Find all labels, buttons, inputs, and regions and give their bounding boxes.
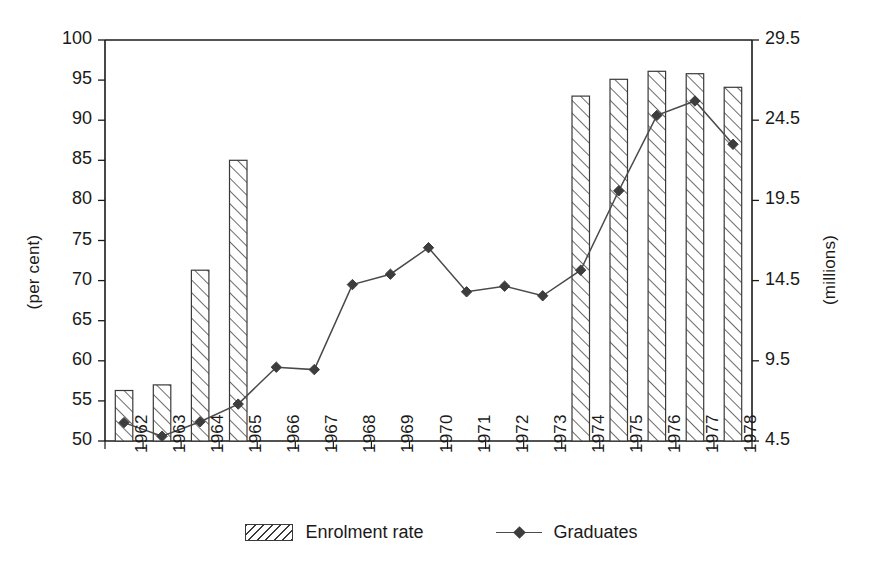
x-tick-label: 1975 (627, 414, 647, 453)
graduates-marker-1972 (499, 281, 509, 291)
x-tick-label: 1974 (589, 414, 609, 453)
bar-1975 (610, 79, 628, 441)
x-tick-label: 1976 (665, 414, 685, 453)
graduates-marker-1973 (538, 291, 548, 301)
y-tick-label-left: 90 (46, 108, 92, 129)
plot-area (0, 0, 883, 572)
y-tick-label-left: 85 (46, 148, 92, 169)
x-tick-label: 1969 (398, 414, 418, 453)
y-tick-label-left: 80 (46, 188, 92, 209)
y-tick-label-right: 24.5 (765, 108, 825, 129)
x-tick-label: 1972 (513, 414, 533, 453)
legend-item-enrolment-rate: Enrolment rate (245, 522, 423, 543)
x-tick-label: 1978 (741, 414, 761, 453)
x-tick-label: 1970 (437, 414, 457, 453)
legend-item-graduates: Graduates (496, 522, 638, 543)
y-tick-label-right: 29.5 (765, 28, 825, 49)
graduates-marker-1967 (309, 364, 319, 374)
y-tick-label-right: 19.5 (765, 188, 825, 209)
y-tick-label-left: 100 (46, 28, 92, 49)
legend-label-enrolment-rate: Enrolment rate (305, 522, 423, 543)
x-tick-label: 1967 (322, 414, 342, 453)
x-tick-label: 1962 (132, 414, 152, 453)
y-tick-label-left: 60 (46, 349, 92, 370)
x-tick-label: 1968 (360, 414, 380, 453)
x-tick-label: 1963 (170, 414, 190, 453)
y-tick-label-left: 50 (46, 429, 92, 450)
x-tick-label: 1977 (703, 414, 723, 453)
diamond-marker-icon (513, 526, 526, 539)
y-tick-label-left: 55 (46, 389, 92, 410)
bar-1962 (115, 391, 133, 442)
x-tick-label: 1966 (284, 414, 304, 453)
x-tick-label: 1973 (551, 414, 571, 453)
bar-1977 (686, 74, 704, 441)
y-tick-label-right: 9.5 (765, 349, 825, 370)
x-tick-label: 1965 (246, 414, 266, 453)
y-tick-label-left: 95 (46, 68, 92, 89)
chart-container: (per cent) (millions) 505560657075808590… (0, 0, 883, 572)
chart-legend: Enrolment rate Graduates (0, 522, 883, 543)
bar-1964 (191, 270, 209, 441)
graduates-line (124, 101, 733, 436)
legend-label-graduates: Graduates (554, 522, 638, 543)
y-tick-label-right: 4.5 (765, 429, 825, 450)
hatched-bar-swatch (245, 524, 293, 541)
y-tick-label-left: 70 (46, 269, 92, 290)
y-tick-label-right: 14.5 (765, 269, 825, 290)
graduates-marker-1968 (347, 279, 357, 289)
y-tick-label-left: 65 (46, 309, 92, 330)
graduates-marker-1969 (385, 269, 395, 279)
y-tick-label-left: 75 (46, 229, 92, 250)
x-tick-label: 1964 (208, 414, 228, 453)
x-tick-label: 1971 (475, 414, 495, 453)
line-marker-swatch (496, 526, 542, 540)
